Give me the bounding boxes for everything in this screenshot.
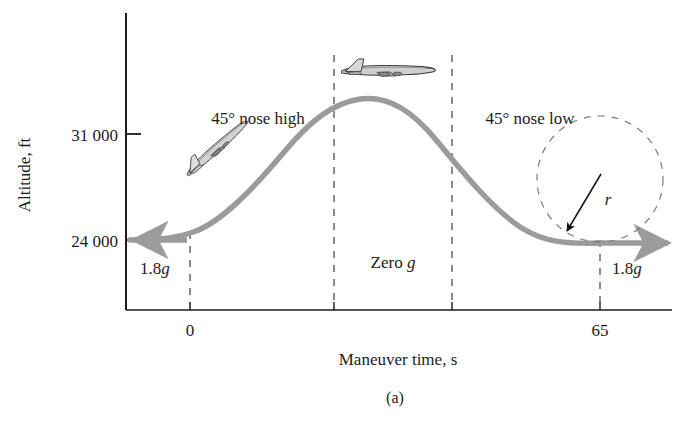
y-axis-title: Altitude, ft	[15, 137, 34, 212]
figure-caption: (a)	[386, 389, 404, 407]
y-axis-ticks	[126, 134, 141, 240]
x-axis-ticks	[190, 302, 600, 310]
annotation-pullup-left-prefix: 1.8	[140, 259, 161, 278]
x-tick-label-65: 65	[592, 321, 609, 340]
annotation-pullup-right-italic: g	[633, 259, 642, 278]
radius-circle-icon	[537, 116, 663, 242]
annotation-pullup-left-italic: g	[161, 259, 170, 278]
annotation-pullup-right-prefix: 1.8	[612, 259, 633, 278]
annotation-zero-g: Zero g	[371, 253, 416, 272]
annotation-nose-low: 45° nose low	[486, 109, 576, 128]
radius-arrow-icon	[567, 174, 601, 231]
annotation-zero-g-italic: g	[407, 253, 416, 272]
figure-container: 31 000 24 000 0 65 Altitude, ft Maneuver…	[0, 0, 691, 426]
altitude-profile-chart: 31 000 24 000 0 65 Altitude, ft Maneuver…	[0, 0, 691, 426]
annotation-radius-label: r	[605, 190, 612, 209]
x-axis-title: Maneuver time, s	[339, 350, 458, 369]
annotation-zero-g-prefix: Zero	[371, 253, 407, 272]
annotation-pullup-left: 1.8g	[140, 259, 170, 278]
y-tick-label-24000: 24 000	[71, 232, 118, 251]
annotation-pullup-right: 1.8g	[612, 259, 642, 278]
x-tick-label-0: 0	[186, 321, 195, 340]
y-tick-label-31000: 31 000	[71, 126, 118, 145]
annotation-nose-high: 45° nose high	[211, 109, 305, 128]
airplane-level-icon	[342, 59, 436, 76]
